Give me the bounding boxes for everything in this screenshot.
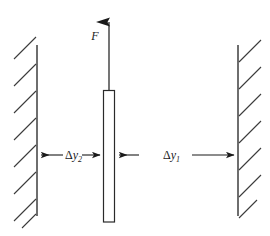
central-vertical-bar: [104, 91, 115, 223]
gap-left-label: Δy2: [65, 148, 82, 164]
left-wall-hatching: [14, 37, 36, 228]
bar-body: [104, 91, 115, 223]
right-fixed-wall: [238, 40, 261, 218]
gap-dimension-right: Δy1: [119, 148, 234, 164]
physics-diagram-canvas: F Δy2 Δy1: [0, 0, 270, 236]
right-wall-hatching: [239, 40, 261, 218]
left-fixed-wall: [14, 37, 37, 228]
gap-dimension-left: Δy2: [41, 148, 100, 164]
diagram-svg: F Δy2 Δy1: [0, 0, 270, 236]
gap-right-label: Δy1: [163, 148, 180, 164]
gap-left-subscript: 2: [78, 155, 82, 164]
gap-right-subscript: 1: [176, 155, 180, 164]
force-label: F: [90, 29, 99, 43]
